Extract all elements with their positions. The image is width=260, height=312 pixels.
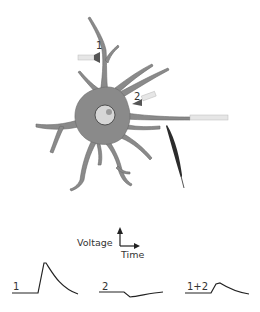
synapse-label-2: 2 <box>134 91 140 102</box>
traces <box>12 263 249 297</box>
electrode-synapse-1 <box>78 52 100 63</box>
axon-electrode <box>190 115 228 120</box>
recording-electrode <box>166 125 184 188</box>
nucleus <box>95 105 115 125</box>
synapse-label-1: 1 <box>96 40 102 51</box>
trace-label-2: 2 <box>102 281 108 292</box>
dendrite-top-branch <box>105 45 119 63</box>
trace-2 <box>99 292 163 297</box>
dendrite-bottom-branch <box>116 166 130 174</box>
dendrite-bottom-right <box>121 134 152 160</box>
dendrite-left-branch <box>50 126 64 153</box>
neuron-diagram: 1 2 Voltage Time 1 2 1+2 <box>0 0 260 312</box>
trace-1 <box>12 263 78 294</box>
trace-label-3: 1+2 <box>187 281 208 292</box>
voltage-time-axes <box>117 227 140 249</box>
dendrite-bottom-left <box>70 140 96 191</box>
dendrite-right-short <box>127 125 160 130</box>
neuron <box>36 17 190 191</box>
dendrite-bottom <box>106 142 132 186</box>
axon <box>125 113 190 120</box>
dendrite-left <box>36 120 78 129</box>
x-axis-label: Time <box>120 249 144 260</box>
nucleolus <box>106 109 112 115</box>
trace-label-1: 1 <box>13 281 19 292</box>
y-axis-label: Voltage <box>77 237 113 248</box>
